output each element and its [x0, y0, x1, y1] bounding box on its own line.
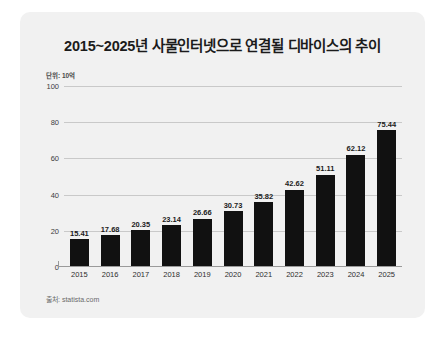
x-axis-tick-label: 2020	[218, 270, 249, 279]
x-axis-tick-label: 2016	[95, 270, 126, 279]
bar-value-label: 26.66	[193, 208, 212, 217]
bar-slot: 42.62	[279, 86, 310, 267]
x-axis-tick-label: 2017	[125, 270, 156, 279]
bar[interactable]: 26.66	[193, 219, 212, 267]
bar-slot: 51.11	[310, 86, 341, 267]
bar-value-label: 20.35	[131, 220, 150, 229]
bar-value-label: 35.82	[254, 192, 273, 201]
y-axis-tick-label: 20	[51, 226, 59, 235]
bar-slot: 35.82	[248, 86, 279, 267]
bar[interactable]: 62.12	[346, 155, 365, 267]
chart-card: 2015~2025년 사물인터넷으로 연결될 디바이스의 추이 단위: 10억 …	[20, 12, 425, 318]
bar-slot: 20.35	[125, 86, 156, 267]
x-axis-tick-label: 2018	[156, 270, 187, 279]
x-axis-tick-label: 2024	[341, 270, 372, 279]
bar[interactable]: 17.68	[101, 235, 120, 267]
bar[interactable]: 35.82	[254, 202, 273, 267]
x-axis-tick-label: 2022	[279, 270, 310, 279]
y-axis-tick-label: 40	[51, 190, 59, 199]
x-axis-labels: 2015201620172018201920202021202220232024…	[64, 270, 402, 279]
bar[interactable]: 20.35	[131, 230, 150, 267]
x-axis-tick-label: 2021	[248, 270, 279, 279]
bar-slot: 62.12	[341, 86, 372, 267]
bar-value-label: 42.62	[285, 179, 304, 188]
bar-slot: 23.14	[156, 86, 187, 267]
plot-area: 020406080100 15.4117.6820.3523.1426.6630…	[64, 86, 402, 267]
bar-value-label: 30.73	[224, 201, 243, 210]
bar[interactable]: 23.14	[162, 225, 181, 267]
bar-value-label: 75.44	[377, 120, 396, 129]
source-label: 출처: statista.com	[46, 294, 99, 304]
bar[interactable]: 75.44	[377, 130, 396, 267]
y-axis-tick-zero	[58, 261, 59, 267]
bar-value-label: 23.14	[162, 215, 181, 224]
x-axis-line	[58, 266, 402, 267]
bar-slot: 15.41	[64, 86, 95, 267]
bar[interactable]: 51.11	[316, 175, 335, 268]
bar-slot: 30.73	[218, 86, 249, 267]
bar[interactable]: 30.73	[224, 211, 243, 267]
bar-value-label: 17.68	[101, 225, 120, 234]
x-axis-tick-label: 2023	[310, 270, 341, 279]
y-axis-tick-label: 100	[46, 82, 59, 91]
bar-slot: 75.44	[371, 86, 402, 267]
bar-value-label: 51.11	[316, 164, 334, 173]
page-title: 2015~2025년 사물인터넷으로 연결될 디바이스의 추이	[20, 34, 425, 55]
bar-value-label: 62.12	[347, 144, 366, 153]
bar-slot: 26.66	[187, 86, 218, 267]
bar-series: 15.4117.6820.3523.1426.6630.7335.8242.62…	[64, 86, 402, 267]
y-axis-tick-label: 60	[51, 154, 59, 163]
unit-label: 단위: 10억	[46, 70, 75, 80]
bar-slot: 17.68	[95, 86, 126, 267]
bar[interactable]: 42.62	[285, 190, 304, 267]
bar[interactable]: 15.41	[70, 239, 89, 267]
x-axis-tick-label: 2025	[371, 270, 402, 279]
y-axis-tick-label: 80	[51, 118, 59, 127]
x-axis-tick-label: 2015	[64, 270, 95, 279]
bar-value-label: 15.41	[70, 229, 89, 238]
x-axis-tick-label: 2019	[187, 270, 218, 279]
